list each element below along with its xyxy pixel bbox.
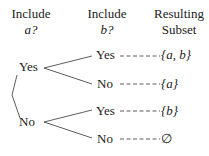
node-b-no-2: No: [97, 132, 113, 146]
subset-empty: ∅: [161, 132, 172, 146]
header-include-a-line1: Include: [6, 7, 56, 21]
header-include-b: Include b?: [82, 7, 132, 37]
branch-no-yes: [44, 110, 92, 122]
header-include-b-line1: Include: [82, 7, 132, 21]
branch-yes-no: [44, 68, 92, 84]
branch-yes-yes: [44, 56, 92, 68]
node-b-yes-1: Yes: [96, 48, 115, 62]
header-include-a: Include a?: [6, 7, 56, 37]
header-include-a-line2: a?: [6, 23, 56, 37]
subset-a: {a}: [161, 77, 178, 91]
subset-b: {b}: [161, 104, 178, 118]
header-include-b-line2: b?: [82, 23, 132, 37]
node-a-no: No: [19, 115, 35, 129]
header-resulting-subset: Resulting Subset: [150, 7, 208, 37]
node-a-yes: Yes: [19, 60, 38, 74]
branch-no-no: [44, 122, 92, 138]
node-b-no-1: No: [97, 77, 113, 91]
header-resulting-subset-line1: Resulting: [150, 7, 208, 21]
header-resulting-subset-line2: Subset: [150, 23, 208, 37]
branch-connector-yes-no: [12, 75, 17, 95]
node-b-yes-2: Yes: [96, 104, 115, 118]
subset-a-b: {a, b}: [161, 48, 191, 62]
